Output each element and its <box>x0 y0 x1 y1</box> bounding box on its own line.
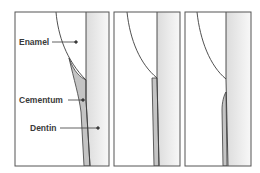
panel-1 <box>15 12 109 166</box>
panel-3 <box>185 12 251 166</box>
panel-2 <box>114 12 180 166</box>
dentin-region <box>226 12 251 166</box>
dentin-region <box>157 12 180 166</box>
tooth-junction-diagram: Enamel Cementum Dentin <box>0 0 260 173</box>
label-dentin: Dentin <box>29 123 57 133</box>
dentin-region <box>86 12 109 166</box>
label-cementum: Cementum <box>18 95 64 105</box>
enamel-leader-dot <box>75 41 78 44</box>
label-enamel: Enamel <box>18 37 50 47</box>
dentin-leader-dot <box>97 127 100 130</box>
cementum-leader-dot <box>82 99 85 102</box>
